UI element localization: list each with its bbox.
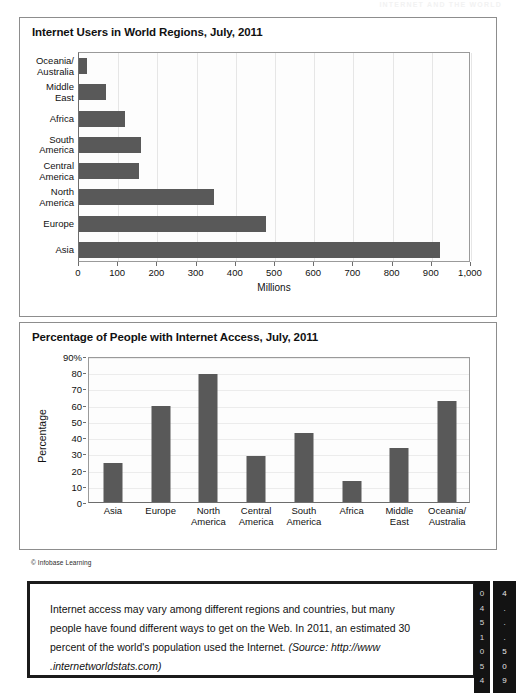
chart2-y-tick: [83, 503, 86, 504]
chart2-y-tick: [83, 487, 86, 488]
chart1-x-axis: 01002003004005006007008009001,000: [78, 262, 470, 282]
chart1-bar: [79, 189, 214, 205]
chart2-y-tick: [83, 471, 86, 472]
chart1-x-tick-label: 0: [75, 267, 80, 278]
chart2-y-axis-title: Percentage: [36, 386, 48, 486]
chart2-y-tick-label: 40: [71, 433, 82, 444]
chart2-y-tick-label: 90%: [63, 352, 82, 363]
page-edge-digit: 4: [474, 602, 490, 617]
page-edge-digit: 0: [474, 587, 490, 602]
chart1-x-tick-label: 700: [344, 267, 360, 278]
chart1-bar-row: MiddleEast: [79, 79, 469, 105]
chart1-x-tick: [313, 262, 314, 266]
chart1-x-tick-label: 800: [384, 267, 400, 278]
chart1-x-tick-label: 500: [266, 267, 282, 278]
chart2-bar-column: SouthAmerica: [280, 358, 328, 502]
chart1-category-label: NorthAmerica: [39, 187, 74, 208]
chart1-x-tick: [431, 262, 432, 266]
chart2-y-tick-label: 50: [71, 416, 82, 427]
chart2-category-label: Asia: [104, 506, 122, 517]
chart1-x-tick-label: 100: [109, 267, 125, 278]
chart1-category-label: MiddleEast: [46, 82, 74, 103]
page-edge-digits-left: 0451054: [474, 581, 490, 693]
running-head: INTERNET AND THE WORLD: [379, 1, 502, 10]
chart1-category-label: Asia: [56, 245, 74, 256]
chart1-category-label: Europe: [43, 218, 74, 229]
chart1-plot-area: Oceania/AustraliaMiddleEastAfricaSouthAm…: [78, 52, 470, 262]
page-edge-digit: .: [493, 616, 516, 631]
caption-text: Internet access may vary among different…: [50, 600, 415, 676]
chart2-y-tick: [83, 422, 86, 423]
chart1-bar: [79, 84, 106, 100]
chart2-y-tick-label: 20: [71, 465, 82, 476]
chart2-bar: [247, 456, 266, 502]
chart1-category-label: Africa: [50, 113, 74, 124]
chart2-category-label: NorthAmerica: [191, 506, 226, 527]
chart1-x-tick: [78, 262, 79, 266]
chart2-y-tick-label: 60: [71, 400, 82, 411]
chart2-bar: [103, 463, 122, 502]
chart2-y-tick-label: 10: [71, 481, 82, 492]
chart1-x-tick-label: 200: [148, 267, 164, 278]
chart2-plot-area: AsiaEuropeNorthAmericaCentralAmericaSout…: [88, 357, 470, 503]
chart1-x-tick-label: 900: [423, 267, 439, 278]
chart1-bar-row: Africa: [79, 106, 469, 132]
chart-title-internet-access: Percentage of People with Internet Acces…: [32, 331, 318, 343]
chart2-bar: [199, 374, 218, 502]
page-edge-digit: 0: [493, 660, 516, 675]
chart2-category-label: Oceania/Australia: [428, 506, 466, 527]
chart2-bar-column: Oceania/Australia: [423, 358, 471, 502]
chart1-x-tick: [470, 262, 471, 266]
chart2-y-tick: [83, 357, 86, 358]
chart1-x-tick: [117, 262, 118, 266]
chart1-bar-row: NorthAmerica: [79, 184, 469, 210]
chart2-category-label: Africa: [339, 506, 363, 517]
chart1-bar: [79, 58, 87, 74]
chart1-x-tick: [392, 262, 393, 266]
chart1-bar: [79, 163, 139, 179]
page-edge-digit: .: [493, 602, 516, 617]
chart2-bar: [342, 481, 361, 502]
chart1-x-tick-label: 1,000: [458, 267, 482, 278]
chart2-bar-column: Europe: [137, 358, 185, 502]
chart2-bar-column: NorthAmerica: [185, 358, 233, 502]
chart1-bar: [79, 111, 125, 127]
chart1-x-tick: [235, 262, 236, 266]
chart2-bar-column: MiddleEast: [376, 358, 424, 502]
chart-panel-internet-access: Percentage of People with Internet Acces…: [19, 322, 497, 550]
chart1-x-tick: [274, 262, 275, 266]
chart1-bar-row: CentralAmerica: [79, 158, 469, 184]
chart1-gridline: [471, 53, 472, 261]
chart2-y-tick: [83, 406, 86, 407]
chart2-bar: [151, 406, 170, 502]
chart2-bar: [294, 433, 313, 502]
chart1-category-label: CentralAmerica: [39, 161, 74, 182]
chart2-category-label: Europe: [145, 506, 176, 517]
chart2-y-tick-label: 30: [71, 449, 82, 460]
chart2-category-label: SouthAmerica: [286, 506, 321, 527]
chart-panel-internet-users: Internet Users in World Regions, July, 2…: [19, 17, 497, 317]
chart1-x-axis-title: Millions: [78, 282, 470, 293]
chart1-x-tick: [156, 262, 157, 266]
chart1-x-tick-label: 400: [227, 267, 243, 278]
chart2-y-tick-label: 0: [77, 498, 82, 509]
chart1-bar-row: Oceania/Australia: [79, 53, 469, 79]
chart2-category-label: CentralAmerica: [239, 506, 274, 527]
chart2-bar: [438, 401, 457, 502]
chart2-bar-column: Africa: [328, 358, 376, 502]
chart1-bar-row: Europe: [79, 211, 469, 237]
chart2-y-tick-label: 80: [71, 368, 82, 379]
copyright-credit: © Infobase Learning: [31, 559, 92, 566]
page-edge-digit: 0: [474, 645, 490, 660]
chart1-bar-row: SouthAmerica: [79, 132, 469, 158]
chart1-x-tick-label: 600: [305, 267, 321, 278]
chart1-x-tick-label: 300: [188, 267, 204, 278]
chart1-x-tick: [196, 262, 197, 266]
chart2-bar-column: Asia: [89, 358, 137, 502]
chart2-category-label: MiddleEast: [385, 506, 413, 527]
chart-title-internet-users: Internet Users in World Regions, July, 2…: [32, 26, 262, 38]
chart2-y-tick: [83, 373, 86, 374]
chart1-category-label: Oceania/Australia: [36, 56, 74, 77]
chart1-bar: [79, 137, 141, 153]
chart2-y-tick: [83, 389, 86, 390]
